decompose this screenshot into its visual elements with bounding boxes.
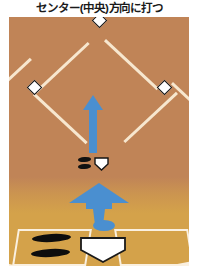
- hit-direction-arrow-lower: [67, 183, 131, 225]
- home-plate-icon: [79, 236, 127, 264]
- diagram-root: センター(中央)方向に打つ: [0, 0, 199, 272]
- page-title: センター(中央)方向に打つ: [0, 1, 199, 15]
- hit-direction-arrow-upper: [82, 95, 104, 153]
- baseball-field: [9, 17, 189, 266]
- home-plate-small-icon: [94, 157, 109, 171]
- ball-marker: [93, 220, 115, 231]
